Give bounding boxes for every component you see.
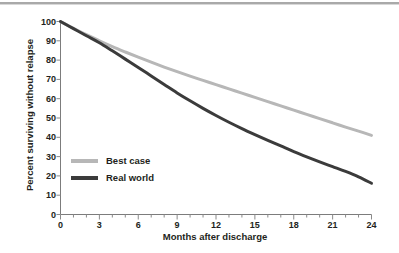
legend-item: Real world [71, 169, 154, 186]
legend-item: Best case [71, 152, 154, 169]
y-axis-tick-label: 20 [32, 171, 56, 180]
legend-label: Best case [106, 156, 150, 166]
y-axis-tick-label: 0 [32, 210, 56, 219]
legend-swatch-icon [71, 159, 98, 163]
chart-legend: Best caseReal world [71, 152, 154, 186]
y-axis-title: Percent surviving without relapse [25, 39, 35, 191]
chart-plot-area [0, 0, 399, 253]
x-axis-tick-label: 3 [97, 221, 102, 230]
y-axis-tick-label: 40 [32, 133, 56, 142]
x-axis-tick-label: 12 [211, 221, 221, 230]
x-axis-title: Months after discharge [163, 232, 268, 242]
x-axis-tick-label: 9 [175, 221, 180, 230]
y-axis-tick-label: 80 [32, 56, 56, 65]
x-axis-tick-label: 0 [58, 221, 63, 230]
y-axis-tick-label: 70 [32, 75, 56, 84]
y-axis-tick-label: 50 [32, 114, 56, 123]
x-axis-tick-label: 18 [289, 221, 299, 230]
series-line-best-case [61, 22, 372, 136]
y-axis-tick-label: 30 [32, 152, 56, 161]
legend-swatch-icon [71, 176, 98, 180]
x-axis-tick-label: 15 [250, 221, 260, 230]
y-axis-tick-label: 60 [32, 94, 56, 103]
legend-label: Real world [106, 173, 154, 183]
y-axis-tick-label: 10 [32, 191, 56, 200]
y-axis-tick-label: 100 [32, 17, 56, 26]
x-axis-tick-label: 6 [136, 221, 141, 230]
chart-figure: 0102030405060708090100 03691215182124 Mo… [0, 0, 399, 253]
x-axis-tick-label: 24 [366, 221, 376, 230]
x-axis-tick-label: 21 [328, 221, 338, 230]
y-axis-tick-label: 90 [32, 36, 56, 45]
